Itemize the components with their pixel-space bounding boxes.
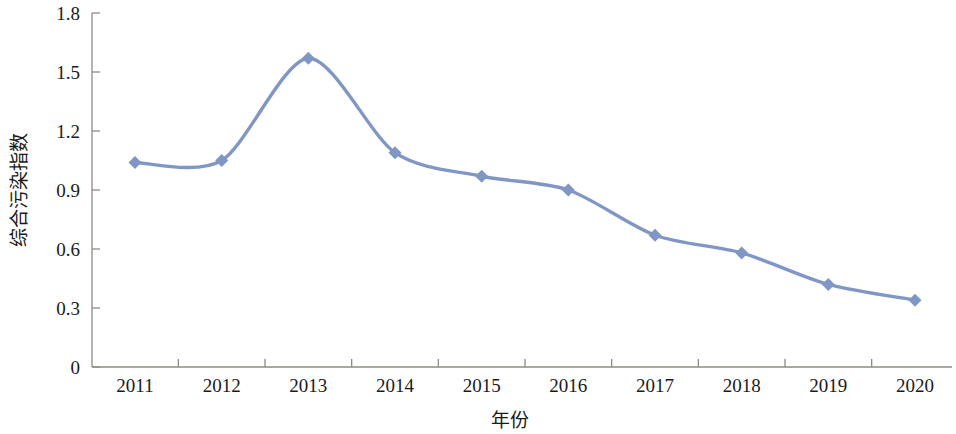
x-tick-label: 2011 bbox=[116, 375, 153, 396]
x-tick-label: 2019 bbox=[809, 375, 847, 396]
chart-background bbox=[0, 0, 956, 434]
x-tick-label: 2020 bbox=[896, 375, 934, 396]
y-tick-label: 0.6 bbox=[56, 239, 80, 260]
x-tick-label: 2016 bbox=[549, 375, 587, 396]
x-tick-label: 2014 bbox=[376, 375, 415, 396]
x-tick-label: 2017 bbox=[636, 375, 674, 396]
y-tick-label: 1.5 bbox=[56, 62, 80, 83]
y-tick-label: 0 bbox=[71, 357, 81, 378]
y-tick-label: 1.2 bbox=[56, 121, 80, 142]
x-tick-label: 2018 bbox=[723, 375, 761, 396]
chart-canvas: 00.30.60.91.21.51.8 20112012201320142015… bbox=[0, 0, 956, 434]
x-tick-label: 2013 bbox=[289, 375, 327, 396]
pollution-index-line-chart: 00.30.60.91.21.51.8 20112012201320142015… bbox=[0, 0, 956, 434]
y-tick-label: 1.8 bbox=[56, 3, 80, 24]
y-tick-label: 0.3 bbox=[56, 298, 80, 319]
y-tick-label: 0.9 bbox=[56, 180, 80, 201]
x-tick-label: 2015 bbox=[463, 375, 501, 396]
y-axis-title: 综合污染指数 bbox=[9, 133, 30, 247]
x-axis-title: 年份 bbox=[491, 410, 529, 431]
x-tick-label: 2012 bbox=[203, 375, 241, 396]
